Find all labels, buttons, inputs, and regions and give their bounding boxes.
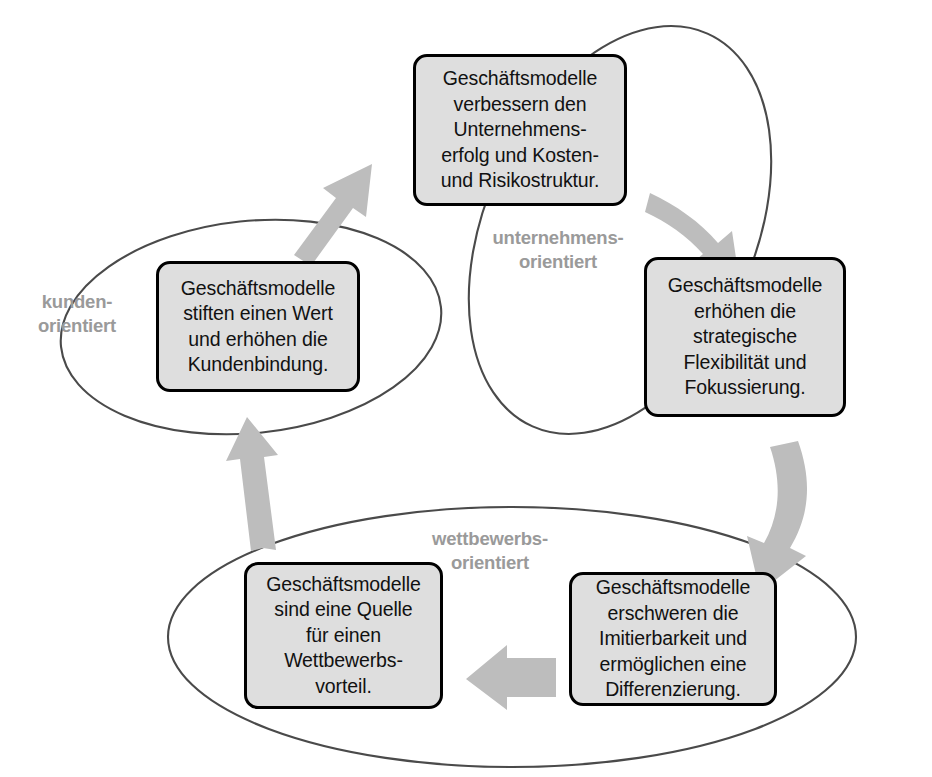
- node-box-unternehmenserfolg[interactable]: Geschäftsmodelle verbessern den Unterneh…: [413, 54, 627, 206]
- arrow-bottom-left-to-left: [226, 417, 278, 551]
- node-text-imitierbarkeit: Geschäftsmodelle erschweren die Imitierb…: [590, 575, 756, 703]
- node-box-wettbewerbsvorteil[interactable]: Geschäftsmodelle sind eine Quelle für ei…: [244, 562, 443, 709]
- diagram-root: kunden- orientiert unternehmens- orienti…: [0, 0, 932, 777]
- arrow-shape-bottom-right-to-bottom-left: [466, 645, 556, 710]
- arrow-shape-left-to-top: [294, 164, 372, 266]
- group-label-unternehmens: unternehmens- orientiert: [468, 226, 648, 274]
- node-text-kundenbindung: Geschäftsmodelle stiften einen Wert und …: [175, 276, 341, 378]
- node-box-imitierbarkeit[interactable]: Geschäftsmodelle erschweren die Imitierb…: [569, 572, 777, 706]
- group-label-kunden: kunden- orientiert: [17, 290, 137, 338]
- arrow-left-to-top: [294, 164, 372, 266]
- node-text-flexibilitaet: Geschäftsmodelle erhöhen die strategisch…: [662, 273, 828, 401]
- arrow-shape-right-to-bottom-right: [747, 441, 807, 592]
- node-box-kundenbindung[interactable]: Geschäftsmodelle stiften einen Wert und …: [156, 261, 360, 392]
- arrow-shape-bottom-left-to-left: [226, 417, 278, 551]
- arrow-bottom-right-to-bottom-left: [466, 645, 556, 710]
- node-text-unternehmenserfolg: Geschäftsmodelle verbessern den Unterneh…: [435, 66, 606, 194]
- node-box-flexibilitaet[interactable]: Geschäftsmodelle erhöhen die strategisch…: [644, 257, 846, 417]
- arrow-right-to-bottom-right: [747, 441, 807, 592]
- node-text-wettbewerbsvorteil: Geschäftsmodelle sind eine Quelle für ei…: [260, 572, 426, 700]
